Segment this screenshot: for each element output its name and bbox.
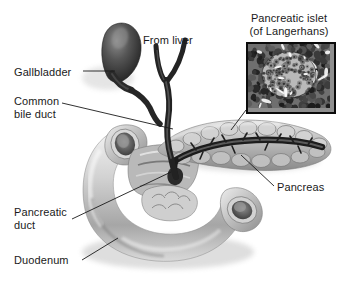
label-pancreatic-duct: Pancreatic duct [14,206,67,232]
label-common-bile-duct: Common bile duct [14,95,59,121]
cystic-duct [131,90,160,124]
islet-histology-image [248,44,330,108]
label-from-liver: From liver [143,34,193,47]
label-pancreatic-islet: Pancreatic islet (of Langerhans) [243,12,335,38]
islet-micrograph-inset [246,42,336,114]
figure-canvas: Gallbladder Common bile duct From liver … [0,0,346,288]
label-duodenum: Duodenum [14,254,69,267]
label-gallbladder: Gallbladder [14,66,71,79]
label-pancreas: Pancreas [277,181,324,194]
